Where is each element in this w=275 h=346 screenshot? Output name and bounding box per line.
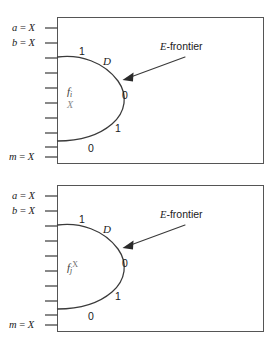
bit-label-bottom-4: 0 [88, 311, 94, 322]
input-ticks-top [45, 28, 58, 157]
panel-top-graphics [0, 0, 275, 173]
figure-panel-top: a = X b = X m = X 1 0 1 0 D E-frontier f… [0, 0, 275, 173]
bit-label-bottom-3: 1 [115, 291, 121, 302]
d-label-bottom: D [103, 224, 111, 235]
panel-bottom-graphics [0, 173, 275, 346]
frontier-arrow-top [123, 57, 186, 82]
frontier-arrow-bottom [123, 225, 186, 250]
bit-label-top-3: 1 [115, 123, 121, 134]
e-frontier-label-bottom: E-frontier [160, 209, 203, 221]
e-frontier-label-top: E-frontier [160, 41, 203, 53]
input-label-a-top: a = X [12, 23, 35, 34]
bit-label-top-2: 0 [122, 90, 128, 101]
input-label-a-bottom: a = X [12, 191, 35, 202]
input-label-b-top: b = X [12, 38, 35, 49]
bit-label-top-4: 0 [88, 143, 94, 154]
bit-label-bottom-2: 0 [122, 258, 128, 269]
input-label-m-bottom: m = X [9, 320, 34, 331]
input-label-b-bottom: b = X [12, 206, 35, 217]
fault-symbol-bottom: fjX [67, 261, 78, 275]
d-label-top: D [103, 56, 111, 67]
figure-panel-bottom: a = X b = X m = X 1 0 1 0 D E-frontier f… [0, 173, 275, 346]
fault-symbol-top: fi [67, 86, 72, 99]
bit-label-bottom-1: 1 [79, 214, 85, 225]
bit-label-top-1: 1 [79, 46, 85, 57]
fault-x-value-top: X [67, 100, 73, 110]
input-label-m-top: m = X [9, 152, 34, 163]
input-ticks-bottom [45, 196, 58, 325]
